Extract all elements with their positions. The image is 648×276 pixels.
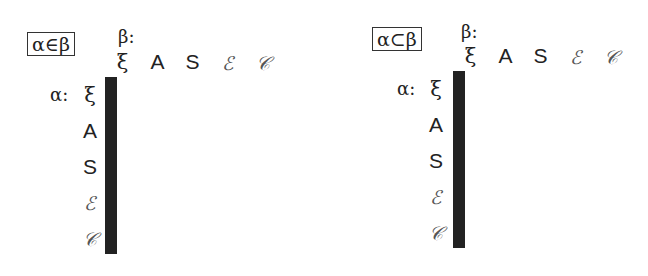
cell	[114, 113, 116, 148]
col-label-xi: ξ	[453, 44, 488, 68]
col-label-a: A	[488, 44, 523, 68]
col-label-a: A	[140, 50, 175, 74]
alpha-label: α:	[397, 78, 415, 99]
subset-title: α⊂β	[372, 27, 422, 51]
col-label-c: 𝒞	[245, 52, 280, 75]
col-label-s: S	[523, 44, 558, 68]
beta-label: β:	[461, 21, 477, 42]
alpha-label: α:	[50, 84, 68, 105]
row-label-c: 𝒞	[78, 228, 102, 251]
subset-grid	[453, 71, 465, 248]
row-label-c: 𝒞	[424, 222, 448, 245]
col-label-c: 𝒞	[593, 46, 628, 69]
cell	[462, 142, 464, 177]
cell	[114, 218, 116, 253]
membership-grid	[105, 77, 117, 254]
row-label-e: ℰ	[78, 192, 102, 214]
cell	[462, 72, 464, 107]
cell	[114, 148, 116, 183]
row-label-s: S	[78, 155, 102, 179]
col-label-s: S	[175, 50, 210, 74]
cell	[462, 107, 464, 142]
cell	[114, 78, 116, 113]
cell	[462, 177, 464, 212]
membership-title: α∈β	[27, 32, 75, 56]
col-label-e: ℰ	[210, 52, 245, 74]
col-label-e: ℰ	[558, 46, 593, 68]
row-label-s: S	[424, 149, 448, 173]
row-label-a: A	[78, 119, 102, 143]
col-label-xi: ξ	[105, 50, 140, 74]
cell	[114, 183, 116, 218]
cell	[462, 212, 464, 247]
beta-label: β:	[118, 26, 134, 47]
row-label-xi: ξ	[78, 83, 102, 107]
row-label-xi: ξ	[424, 77, 448, 101]
row-label-a: A	[424, 113, 448, 137]
row-label-e: ℰ	[424, 186, 448, 208]
